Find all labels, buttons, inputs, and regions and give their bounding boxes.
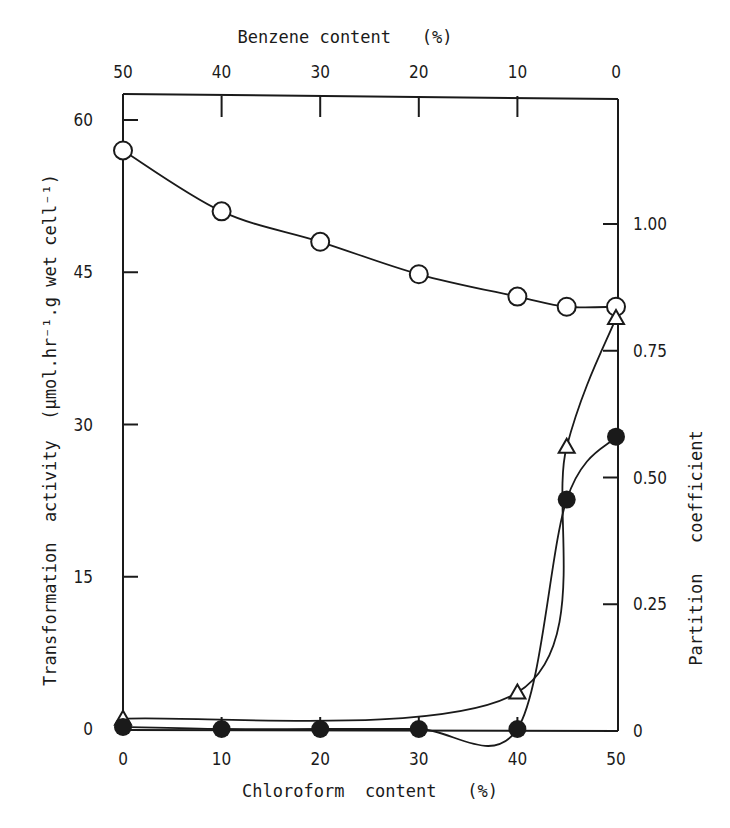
y2-tick-label: 0.50 [633,468,667,488]
x-tick-label: 20 [310,749,329,769]
filled-circle-marker [558,491,576,509]
axis-ticks [123,96,618,730]
plot-frame [123,94,618,731]
x2-tick-label: 50 [113,62,132,82]
x-tick-label: 0 [118,749,128,769]
series-curve [123,150,616,307]
open-triangle-marker [509,684,525,698]
filled-circle-marker [508,720,526,738]
y-tick-label: 45 [74,262,93,282]
left-axis-title: Transformation activity (μmol.hr⁻¹.g wet… [40,174,60,686]
open-circle-marker [558,298,576,316]
x-tick-label: 40 [508,749,527,769]
open-circle-marker [410,265,428,283]
y-tick-label: 30 [74,415,93,435]
open-circle-marker [114,141,132,159]
x-tick-label: 30 [409,749,428,769]
x2-tick-label: 30 [310,62,329,82]
y-tick-label: 60 [74,110,93,130]
bottom-axis-title: Chloroform content (%) [242,781,498,801]
x-tick-label: 50 [606,749,625,769]
series-curve [123,318,616,721]
series-curve [123,437,616,746]
series-open-circle [114,141,625,315]
y2-tick-label: 0.25 [633,594,667,614]
x-tick-label: 10 [212,749,231,769]
right-axis-title: Partition coefficient [686,430,706,665]
axis-tick-labels: 010203040505040302010001530456000.250.50… [74,62,668,769]
y2-tick-label: 0 [633,721,643,741]
y-tick-label: 0 [83,719,93,739]
data-series [114,141,625,746]
open-triangle-marker [559,439,575,453]
y2-tick-label: 0.75 [633,341,667,361]
x2-tick-label: 20 [409,62,428,82]
x2-tick-label: 0 [611,62,621,82]
top-axis-title: Benzene content (%) [238,27,453,47]
chart: 010203040505040302010001530456000.250.50… [0,0,730,828]
open-circle-marker [508,288,526,306]
filled-circle-marker [607,428,625,446]
series-filled-circle [114,428,625,746]
x2-tick-label: 40 [212,62,231,82]
open-circle-marker [311,233,329,251]
series-open-triangle [115,310,624,725]
y2-tick-label: 1.00 [633,214,667,234]
filled-circle-marker [213,720,231,738]
open-circle-marker [213,202,231,220]
filled-circle-marker [311,720,329,738]
filled-circle-marker [410,720,428,738]
filled-circle-marker [114,718,132,736]
y-tick-label: 15 [74,567,93,587]
x2-tick-label: 10 [508,62,527,82]
